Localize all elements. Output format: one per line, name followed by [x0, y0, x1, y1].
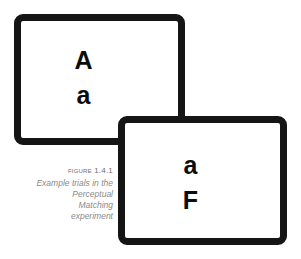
figure-caption-label: Figure 1.4.1: [36, 166, 113, 177]
stimulus-letter-top: A: [74, 48, 92, 73]
stimulus-card-front-letters: a F: [183, 153, 198, 213]
stimulus-card-front: a F: [118, 116, 287, 245]
figure-caption: Figure 1.4.1 Example trials in the Perce…: [36, 166, 113, 222]
figure-caption-body: Example trials in the Perceptual Matchin…: [36, 178, 113, 223]
stimulus-letter-top: a: [184, 153, 198, 178]
figure-stage: A a Figure 1.4.1 Example trials in the P…: [0, 0, 301, 259]
stimulus-letter-bottom: F: [183, 188, 198, 213]
stimulus-card-back-letters: A a: [74, 48, 92, 108]
stimulus-letter-bottom: a: [77, 83, 91, 108]
